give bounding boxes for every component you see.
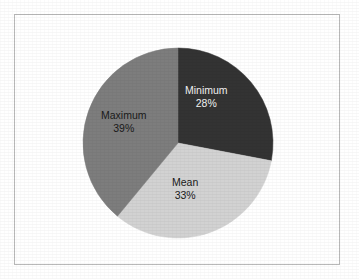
pie-slice-group [83,48,273,238]
pie-chart-figure: Minimum 28% Maximum 39% Mean 33% [0,0,359,279]
pie-svg [0,0,359,279]
pie-slice-minimum[interactable] [178,48,273,161]
pie-plot-area: Minimum 28% Maximum 39% Mean 33% [0,0,359,279]
